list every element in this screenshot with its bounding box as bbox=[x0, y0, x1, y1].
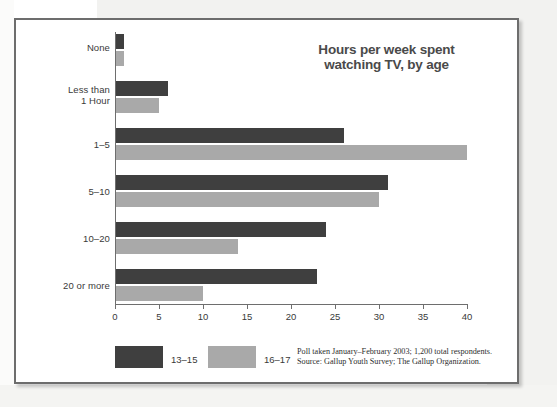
category-label-line: 10–20 bbox=[26, 233, 110, 244]
x-tick-0 bbox=[115, 304, 116, 309]
bar-10-20-13-15 bbox=[115, 222, 326, 237]
category-label-line: 20 or more bbox=[26, 280, 110, 291]
bar-20-or-more-16-17 bbox=[115, 286, 203, 301]
y-axis-line bbox=[115, 32, 116, 304]
page-edge-bottom bbox=[0, 385, 557, 407]
x-tick-25 bbox=[335, 304, 336, 309]
x-tick-10 bbox=[203, 304, 204, 309]
x-tick-label-35: 35 bbox=[411, 311, 435, 322]
chart-footnote: Poll taken January–February 2003; 1,200 … bbox=[297, 347, 512, 366]
category-label-10-20: 10–20 bbox=[26, 233, 110, 244]
category-label-line: 1 Hour bbox=[26, 95, 110, 106]
x-tick-label-15: 15 bbox=[235, 311, 259, 322]
category-label-line: None bbox=[26, 42, 110, 53]
bar-less-than-1-hour-16-17 bbox=[115, 98, 159, 113]
bar-5-10-16-17 bbox=[115, 192, 379, 207]
bar-none-16-17 bbox=[115, 51, 124, 66]
category-label-line: 5–10 bbox=[26, 186, 110, 197]
chart-title-line-1: Hours per week spent bbox=[274, 42, 499, 57]
bar-1-5-16-17 bbox=[115, 145, 467, 160]
legend-label-13-15: 13–15 bbox=[171, 354, 197, 365]
category-label-20-or-more: 20 or more bbox=[26, 280, 110, 291]
x-tick-30 bbox=[379, 304, 380, 309]
x-tick-label-5: 5 bbox=[147, 311, 171, 322]
category-label-line: 1–5 bbox=[26, 139, 110, 150]
x-tick-35 bbox=[423, 304, 424, 309]
bar-1-5-13-15 bbox=[115, 128, 344, 143]
x-tick-label-30: 30 bbox=[367, 311, 391, 322]
legend-swatch-16-17 bbox=[208, 346, 256, 368]
category-label-5-10: 5–10 bbox=[26, 186, 110, 197]
x-tick-label-10: 10 bbox=[191, 311, 215, 322]
chart-title-line-2: watching TV, by age bbox=[274, 57, 499, 72]
x-tick-label-20: 20 bbox=[279, 311, 303, 322]
x-tick-40 bbox=[467, 304, 468, 309]
page-edge-left bbox=[0, 0, 14, 407]
footnote-line-2: Source: Gallup Youth Survey; The Gallup … bbox=[297, 357, 512, 367]
category-label-line: Less than bbox=[26, 84, 110, 95]
chart-figure: Hours per week spent watching TV, by age… bbox=[14, 18, 519, 384]
category-label-none: None bbox=[26, 42, 110, 53]
category-label-1-5: 1–5 bbox=[26, 139, 110, 150]
x-tick-5 bbox=[159, 304, 160, 309]
chart-plot-area: Hours per week spent watching TV, by age… bbox=[16, 20, 517, 382]
bar-10-20-16-17 bbox=[115, 239, 238, 254]
legend-swatch-13-15 bbox=[115, 346, 163, 368]
legend-label-16-17: 16–17 bbox=[264, 354, 290, 365]
x-tick-20 bbox=[291, 304, 292, 309]
x-tick-label-40: 40 bbox=[455, 311, 479, 322]
bar-20-or-more-13-15 bbox=[115, 269, 317, 284]
chart-title: Hours per week spent watching TV, by age bbox=[274, 42, 499, 72]
x-tick-label-0: 0 bbox=[103, 311, 127, 322]
bar-none-13-15 bbox=[115, 34, 124, 49]
bar-5-10-13-15 bbox=[115, 175, 388, 190]
x-tick-15 bbox=[247, 304, 248, 309]
x-tick-label-25: 25 bbox=[323, 311, 347, 322]
footnote-line-1: Poll taken January–February 2003; 1,200 … bbox=[297, 347, 512, 357]
category-label-less-than-1-hour: Less than 1 Hour bbox=[26, 84, 110, 106]
bar-less-than-1-hour-13-15 bbox=[115, 81, 168, 96]
